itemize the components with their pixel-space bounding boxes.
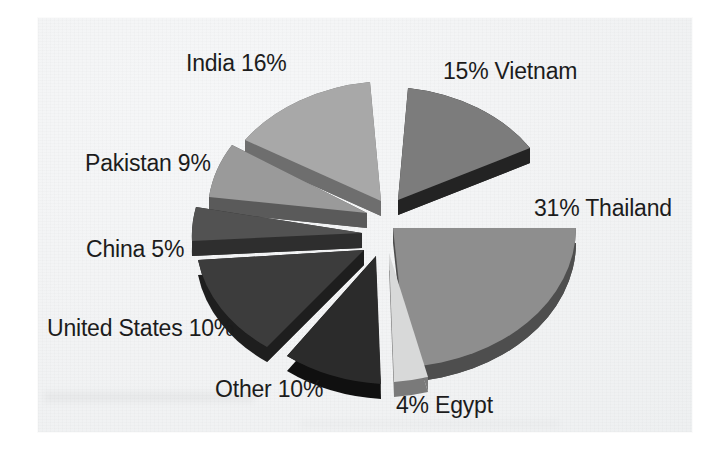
slice-label-india: India 16% — [186, 52, 287, 75]
slice-label-egypt: 4% Egypt — [396, 394, 493, 417]
pie-slices — [192, 82, 576, 399]
pie-slice-vietnam — [398, 88, 530, 215]
slice-label-china: China 5% — [86, 238, 184, 261]
slice-label-pakistan: Pakistan 9% — [85, 152, 211, 175]
slice-label-united-states: United States 10% — [47, 317, 234, 340]
slice-label-vietnam: 15% Vietnam — [443, 60, 577, 83]
slice-label-thailand: 31% Thailand — [534, 197, 672, 220]
scanned-page: India 16% 15% Vietnam 31% Thailand 4% Eg… — [0, 0, 727, 470]
slice-label-other: Other 10% — [215, 378, 323, 401]
pie-chart — [0, 0, 727, 470]
